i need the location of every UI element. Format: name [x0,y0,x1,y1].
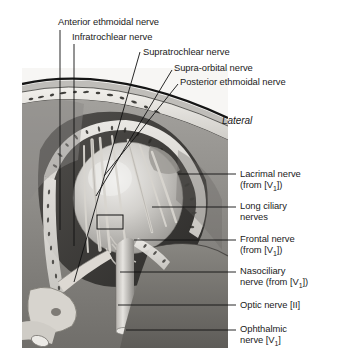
nasociliary-qualifier: (from [V1]) [263,276,308,287]
optic-nerve-qualifier: [II] [287,299,300,310]
lacrimal-nerve-name: Lacrimal nerve [240,168,301,179]
label-anterior-ethmoidal-nerve: Anterior ethmoidal nerve [58,16,159,27]
ophthalmic-line2: nerve [240,334,263,345]
nasociliary-line1: Nasociliary [240,265,285,276]
label-frontal-nerve: Frontal nerve (from [V1]) [240,233,295,255]
orientation-label-lateral: Lateral [222,115,252,126]
ophthalmic-qualifier: [V1] [263,334,281,345]
label-optic-nerve: Optic nerve [II] [240,299,300,310]
frontal-nerve-qualifier: (from [V1]) [240,244,282,255]
label-infratrochlear-nerve: Infratrochlear nerve [72,31,152,42]
illustration-body [22,68,228,349]
long-ciliary-line1: Long ciliary [240,200,287,211]
long-ciliary-line2: nerves [240,211,268,222]
label-ophthalmic-nerve: Ophthalmic nerve [V1] [240,323,332,345]
label-nasociliary-nerve: Nasociliary nerve (from [V1]) [240,265,332,287]
ophthalmic-line1: Ophthalmic [240,323,287,334]
frontal-nerve-name: Frontal nerve [240,233,295,244]
label-long-ciliary-nerves: Long ciliary nerves [240,200,287,222]
label-posterior-ethmoidal-nerve: Posterior ethmoidal nerve [180,76,286,87]
nasociliary-line2: nerve [240,276,263,287]
label-supratrochlear-nerve: Supratrochlear nerve [143,46,230,57]
label-lacrimal-nerve: Lacrimal nerve (from [V1]) [240,168,301,190]
optic-nerve-name: Optic nerve [240,299,287,310]
label-supra-orbital-nerve: Supra-orbital nerve [174,62,253,73]
lacrimal-nerve-qualifier: (from [V1]) [240,179,282,190]
